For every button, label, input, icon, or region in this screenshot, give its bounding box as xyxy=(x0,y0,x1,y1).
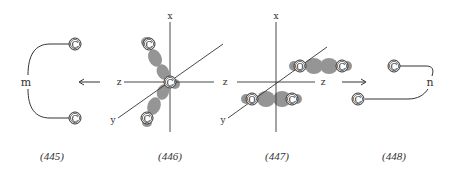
bond-curve-lower xyxy=(28,89,69,118)
figure-445: m C C xyxy=(21,38,81,124)
bond-curve-lower xyxy=(365,89,428,99)
svg-text:C: C xyxy=(146,40,153,50)
svg-text:C: C xyxy=(355,95,362,105)
caption-445: (445) xyxy=(40,150,64,162)
svg-text:C: C xyxy=(167,78,174,88)
axis-label-y: y xyxy=(219,115,226,125)
atom-c-top: C xyxy=(69,38,81,50)
atom-o-lower: O xyxy=(246,93,258,105)
axis-label-x: x xyxy=(273,11,278,21)
svg-text:C: C xyxy=(72,114,79,124)
atom-c-lower: C xyxy=(352,93,364,105)
y-axis xyxy=(228,47,327,118)
arrow-right-icon xyxy=(342,79,366,85)
atom-o-upper: O xyxy=(294,60,306,72)
bond-curve-upper xyxy=(28,44,69,75)
atom-c-center: C xyxy=(164,76,176,88)
atom-c-upper: C xyxy=(388,60,400,72)
center-label-n: n xyxy=(426,76,433,89)
axis-label-x: x xyxy=(167,11,172,21)
orbital-diagram-figure: m C C x z z y xyxy=(0,0,456,171)
svg-text:O: O xyxy=(248,95,255,105)
caption-448: (448) xyxy=(382,150,406,162)
svg-text:C: C xyxy=(72,40,79,50)
svg-text:C: C xyxy=(289,95,296,105)
caption-447: (447) xyxy=(265,150,289,162)
svg-text:C: C xyxy=(391,62,398,72)
caption-446: (446) xyxy=(158,150,182,162)
atom-c-upper: C xyxy=(143,38,155,50)
atom-c-bottom: C xyxy=(69,112,81,124)
svg-text:O: O xyxy=(296,62,303,72)
atom-c-upper: C xyxy=(336,60,348,72)
svg-text:C: C xyxy=(144,114,151,124)
figure-446: x z z y C C C xyxy=(109,11,227,132)
atom-c-lower: C xyxy=(141,112,153,124)
bond-curve-upper xyxy=(400,66,433,76)
center-label-m: m xyxy=(21,76,32,89)
atom-c-lower: C xyxy=(286,93,298,105)
arrow-left-icon xyxy=(79,79,100,85)
svg-text:C: C xyxy=(339,62,346,72)
axis-label-z-right: z xyxy=(321,77,326,87)
axis-label-z-left: z xyxy=(117,77,122,87)
axis-label-y: y xyxy=(109,115,116,125)
figure-447: x z z y O C O C xyxy=(219,11,352,132)
